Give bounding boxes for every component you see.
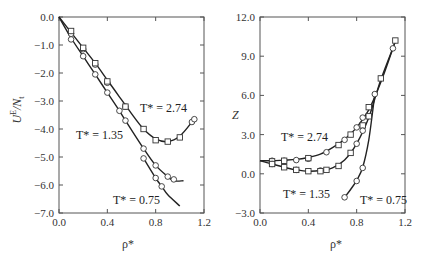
annotation-t075-left: T* = 0.75 xyxy=(113,193,160,207)
right-y-axis-label: Z xyxy=(232,108,239,122)
data-point-square xyxy=(123,104,128,109)
data-point-square xyxy=(336,163,341,168)
data-point-square xyxy=(318,168,323,173)
data-point-square xyxy=(68,28,73,33)
x-tick-label: 0.0 xyxy=(52,216,66,228)
data-point-square xyxy=(306,155,311,160)
left-panel-energy: 0.00.40.81.20.0−1.0−2.0−3.0−4.0−5.0−6.0−… xyxy=(9,11,211,251)
y-tick-label: 0.0 xyxy=(241,168,255,180)
data-point-circle xyxy=(80,53,86,59)
data-point-square xyxy=(348,150,353,155)
data-point-square xyxy=(360,123,365,128)
y-tick-label: −3.0 xyxy=(235,207,255,219)
y-tick-label: 9.0 xyxy=(241,50,255,62)
data-point-square xyxy=(105,79,110,84)
y-tick-label: −2.0 xyxy=(34,67,54,79)
annotation-t274-right: T* = 2.74 xyxy=(281,130,328,144)
left-x-axis-label: ρ* xyxy=(122,237,134,251)
x-tick-label: 0.8 xyxy=(149,216,163,228)
x-tick-label: 0.4 xyxy=(301,216,315,228)
y-tick-label: −4.0 xyxy=(34,123,54,135)
data-point-circle xyxy=(192,116,198,122)
data-point-square xyxy=(366,114,371,119)
y-tick-label: −3.0 xyxy=(34,95,54,107)
right-panel-compressibility: 0.00.40.81.212.09.06.03.00.0−3.0 T* = 2.… xyxy=(232,11,412,251)
data-point-square xyxy=(324,167,329,172)
data-point-circle xyxy=(171,177,177,183)
x-tick-label: 0.4 xyxy=(100,216,114,228)
annotation-t135-left: T* = 1.35 xyxy=(76,128,123,142)
data-point-square xyxy=(294,167,299,172)
x-tick-label: 0.0 xyxy=(253,216,267,228)
data-point-circle xyxy=(354,141,360,147)
x-tick-label: 0.8 xyxy=(350,216,364,228)
y-tick-label: 3.0 xyxy=(241,129,255,141)
data-point-square xyxy=(281,158,286,163)
data-point-circle xyxy=(372,91,378,97)
data-point-square xyxy=(348,132,353,137)
data-point-square xyxy=(80,45,85,50)
chart-figure: 0.00.40.81.20.0−1.0−2.0−3.0−4.0−5.0−6.0−… xyxy=(0,0,422,260)
data-point-circle xyxy=(360,115,366,121)
data-point-square xyxy=(269,161,274,166)
data-point-circle xyxy=(141,146,147,152)
data-point-circle xyxy=(153,163,159,169)
right-curves xyxy=(260,41,395,198)
y-tick-label: 12.0 xyxy=(236,11,256,23)
data-point-circle xyxy=(360,165,366,171)
right-x-axis-label: ρ* xyxy=(330,237,342,251)
data-point-circle xyxy=(165,174,171,180)
data-point-circle xyxy=(159,184,165,190)
annotation-t135-right: T* = 1.35 xyxy=(283,187,330,201)
data-point-circle xyxy=(342,195,348,201)
y-tick-label: −7.0 xyxy=(34,207,54,219)
data-point-square xyxy=(281,165,286,170)
y-tick-label: −6.0 xyxy=(34,179,54,191)
annotation-t274-left: T* = 2.74 xyxy=(140,101,187,115)
data-point-circle xyxy=(105,90,111,96)
data-point-square xyxy=(306,168,311,173)
x-tick-label: 1.2 xyxy=(197,216,211,228)
right-markers xyxy=(269,38,398,200)
data-point-square xyxy=(336,142,341,147)
data-point-square xyxy=(378,76,383,81)
data-point-square xyxy=(141,126,146,131)
y-tick-label: 0.0 xyxy=(40,11,54,23)
data-point-circle xyxy=(153,175,159,181)
data-point-circle xyxy=(354,178,360,184)
data-point-circle xyxy=(92,72,98,78)
data-point-circle xyxy=(293,157,299,163)
data-point-square xyxy=(177,135,182,140)
data-point-square xyxy=(93,61,98,66)
data-point-circle xyxy=(117,108,123,114)
annotation-t075-right: T* = 0.75 xyxy=(360,193,407,207)
data-point-square xyxy=(153,138,158,143)
left-y-axis-label: UE/Nt xyxy=(9,96,26,124)
data-point-circle xyxy=(342,137,348,143)
data-point-circle xyxy=(360,128,366,134)
y-tick-label: −1.0 xyxy=(34,39,54,51)
data-point-circle xyxy=(141,156,147,162)
data-point-circle xyxy=(324,149,330,155)
data-point-circle xyxy=(354,125,360,131)
y-tick-label: −5.0 xyxy=(34,151,54,163)
data-point-circle xyxy=(68,37,74,43)
right-plot-frame xyxy=(260,17,405,213)
data-point-circle xyxy=(390,46,396,52)
data-point-square xyxy=(393,38,398,43)
data-point-square xyxy=(165,139,170,144)
y-tick-label: 6.0 xyxy=(241,89,255,101)
data-point-square xyxy=(366,104,371,109)
data-point-circle xyxy=(123,118,129,124)
x-tick-label: 1.2 xyxy=(398,216,412,228)
